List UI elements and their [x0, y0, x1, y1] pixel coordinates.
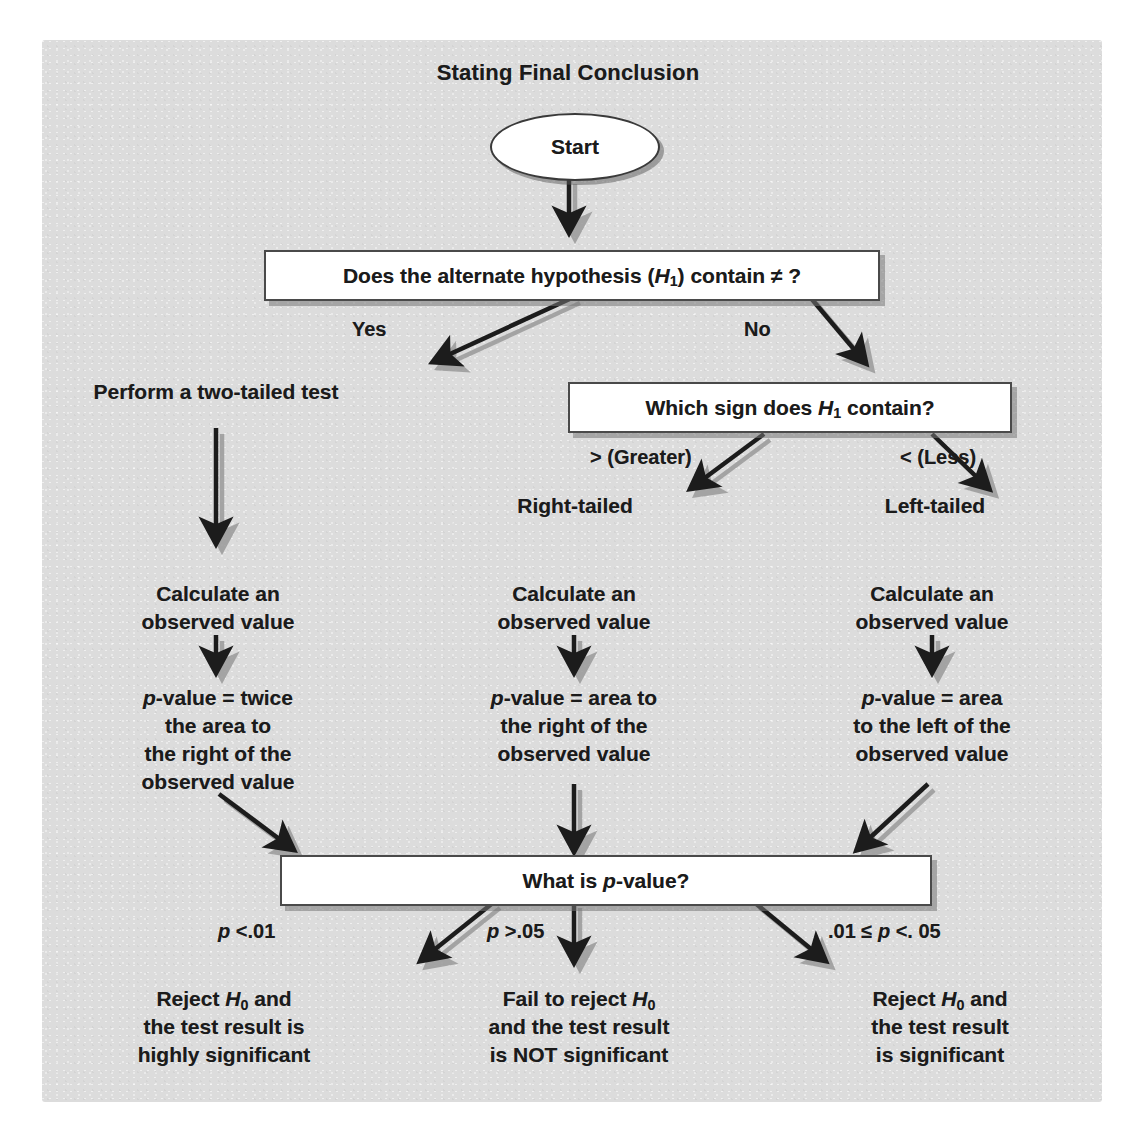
- node-calculate-observed-left: Calculate an observed value: [96, 580, 340, 636]
- flowchart-figure: Stating Final Conclusion Start Does the …: [0, 0, 1136, 1137]
- node-conclusion-significant: Reject H0 and the test result is signifi…: [800, 985, 1080, 1069]
- edge-label-less: < (Less): [900, 446, 976, 469]
- node-decision1-label: Does the alternate hypothesis (H1) conta…: [343, 264, 801, 288]
- node-pvalue-definition-right: p-value = area to the left of the observ…: [800, 684, 1064, 768]
- node-decision-alternate-hypothesis: Does the alternate hypothesis (H1) conta…: [264, 250, 880, 301]
- node-decision2-label: Which sign does H1 contain?: [645, 396, 934, 420]
- edge-label-p-lt-01: p <.01: [218, 920, 275, 943]
- node-perform-two-tailed-test: Perform a two-tailed test: [46, 378, 386, 406]
- node-decision-what-is-pvalue: What is p-value?: [280, 855, 932, 906]
- node-pvalue-definition-mid: p-value = area to the right of the obser…: [442, 684, 706, 768]
- node-left-tailed: Left-tailed: [830, 492, 1040, 520]
- edge-label-p-gt-05: p >.05: [487, 920, 544, 943]
- node-pvalue-definition-left: p-value = twice the area to the right of…: [86, 684, 350, 796]
- edge-label-yes: Yes: [352, 318, 386, 341]
- node-decision3-label: What is p-value?: [523, 869, 690, 893]
- edge-label-greater: > (Greater): [590, 446, 692, 469]
- node-calculate-observed-mid: Calculate an observed value: [452, 580, 696, 636]
- node-conclusion-highly-significant: Reject H0 and the test result is highly …: [84, 985, 364, 1069]
- node-start-label: Start: [551, 135, 599, 159]
- node-decision-which-sign: Which sign does H1 contain?: [568, 382, 1012, 433]
- node-calculate-observed-right: Calculate an observed value: [810, 580, 1054, 636]
- node-layer: Stating Final Conclusion Start Does the …: [0, 0, 1136, 1137]
- node-start: Start: [490, 113, 660, 181]
- node-right-tailed: Right-tailed: [470, 492, 680, 520]
- page-title: Stating Final Conclusion: [0, 60, 1136, 86]
- edge-label-p-between: .01 ≤ p <. 05: [828, 920, 941, 943]
- node-conclusion-not-significant: Fail to reject H0 and the test result is…: [434, 985, 724, 1069]
- edge-label-no: No: [744, 318, 771, 341]
